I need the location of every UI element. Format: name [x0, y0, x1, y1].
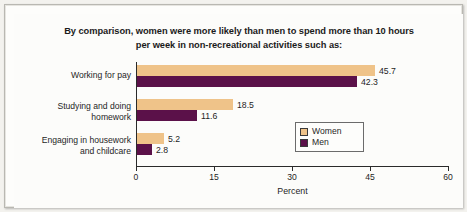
x-axis-tick-15	[214, 167, 215, 171]
x-axis-label-45: 45	[365, 172, 375, 182]
bar-men-housework-childcare	[137, 144, 152, 155]
x-axis-label-0: 0	[134, 172, 139, 182]
bar-value-women-housework-childcare: 5.2	[168, 134, 180, 144]
x-axis-tick-45	[370, 167, 371, 171]
plot-area: 0 15 30 45 60 Percent Working for pay 45…	[14, 14, 463, 208]
bar-value-men-studying-homework: 11.6	[201, 111, 217, 121]
x-axis-label-30: 30	[287, 172, 297, 182]
x-axis-tick-60	[448, 167, 449, 171]
bar-value-men-housework-childcare: 2.8	[156, 145, 168, 155]
x-axis-label-60: 60	[443, 172, 453, 182]
legend-label-men: Men	[312, 137, 329, 148]
bar-women-working-for-pay	[137, 65, 375, 76]
figure-frame: By comparison, women were more likely th…	[4, 4, 463, 208]
legend-item-men: Men	[300, 137, 359, 148]
x-axis-tick-0	[136, 167, 137, 171]
chart-legend: Women Men	[295, 122, 364, 152]
bar-men-working-for-pay	[137, 76, 357, 87]
bar-value-women-working-for-pay: 45.7	[379, 66, 396, 76]
legend-item-women: Women	[300, 126, 359, 137]
figure-plate: By comparison, women were more likely th…	[14, 14, 463, 208]
bar-value-men-working-for-pay: 42.3	[361, 77, 378, 87]
bar-men-studying-homework	[137, 110, 197, 121]
bar-women-housework-childcare	[137, 133, 164, 144]
bar-women-studying-homework	[137, 99, 233, 110]
legend-swatch-men-icon	[300, 139, 308, 147]
figure-container: By comparison, women were more likely th…	[0, 0, 467, 212]
category-label-studying-homework: Studying and doing homework	[57, 101, 131, 122]
category-label-working-for-pay: Working for pay	[71, 70, 131, 81]
x-axis-label-15: 15	[209, 172, 219, 182]
x-axis-tick-30	[292, 167, 293, 171]
legend-swatch-women-icon	[300, 128, 308, 136]
legend-label-women: Women	[312, 126, 341, 137]
category-label-housework-childcare: Engaging in housework and childcare	[42, 135, 131, 156]
bar-value-women-studying-homework: 18.5	[237, 100, 254, 110]
x-axis-title: Percent	[136, 186, 449, 196]
